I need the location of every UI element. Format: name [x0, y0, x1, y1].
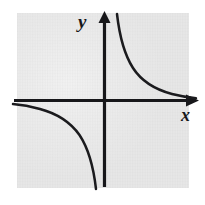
hyperbola-figure: y x	[0, 0, 205, 205]
curve-branch-quadrant-1	[117, 14, 196, 98]
curve-branch-quadrant-3	[13, 104, 96, 189]
y-axis-label: y	[78, 12, 86, 31]
y-axis-arrow-icon	[99, 11, 111, 23]
graph-canvas	[0, 0, 205, 205]
x-axis-label: x	[181, 106, 190, 124]
